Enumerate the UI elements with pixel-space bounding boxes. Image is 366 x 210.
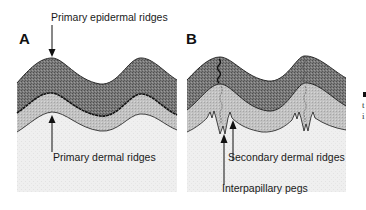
label-primary-epidermal-ridges: Primary epidermal ridges [51,12,168,23]
panel-label-b: B [186,31,197,46]
label-interpapillary-pegs: Interpapillary pegs [222,183,308,194]
arrow-primary-epidermal [49,25,56,57]
label-primary-dermal-ridges: Primary dermal ridges [53,152,156,163]
label-secondary-dermal-ridges: Secondary dermal ridges [228,152,345,163]
panel-a [17,58,177,192]
caption-fragment-1: t [362,100,365,110]
panel-b [187,56,346,192]
panel-label-a: A [19,31,30,46]
figure-canvas: A B Primary epidermal ridges Primary der… [0,0,366,210]
skin-layers-diagram [0,0,366,210]
caption-fragment-2: i [362,111,365,121]
